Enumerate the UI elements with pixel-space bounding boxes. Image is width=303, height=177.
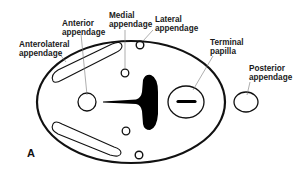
label-posterior-appendage: Posterior appendage xyxy=(249,64,292,82)
anterior-appendage xyxy=(78,93,96,111)
label-line: papilla xyxy=(210,47,244,56)
medial-appendage-lower xyxy=(122,127,130,135)
posterior-appendage xyxy=(234,92,258,112)
label-line: Terminal xyxy=(210,38,244,47)
panel-label: A xyxy=(27,147,35,159)
anterolateral-appendage-lower xyxy=(52,122,121,156)
medial-appendage-upper xyxy=(121,69,129,77)
leader-lateral xyxy=(143,30,153,41)
label-line: appendage xyxy=(249,73,292,82)
lateral-appendage-lower xyxy=(135,151,143,159)
leader-terminal xyxy=(193,56,213,90)
diagram: Anterolateral appendage Anterior appenda… xyxy=(0,0,303,177)
label-line: Lateral xyxy=(155,15,198,24)
label-medial-appendage: Medial appendage xyxy=(109,11,152,29)
label-anterolateral-appendage: Anterolateral appendage xyxy=(19,40,70,58)
label-terminal-papilla: Terminal papilla xyxy=(210,38,244,56)
label-line: appendage xyxy=(155,24,198,33)
label-line: appendage xyxy=(109,20,152,29)
label-line: appendage xyxy=(19,49,70,58)
label-line: appendage xyxy=(62,28,105,37)
label-lateral-appendage: Lateral appendage xyxy=(155,15,198,33)
label-line: Anterolateral xyxy=(19,40,70,49)
leader-anterior xyxy=(81,34,87,95)
label-line: Medial xyxy=(109,11,152,20)
label-anterior-appendage: Anterior appendage xyxy=(62,19,105,37)
central-black-structure xyxy=(103,75,158,130)
label-line: Anterior xyxy=(62,19,105,28)
label-line: Posterior xyxy=(249,64,292,73)
